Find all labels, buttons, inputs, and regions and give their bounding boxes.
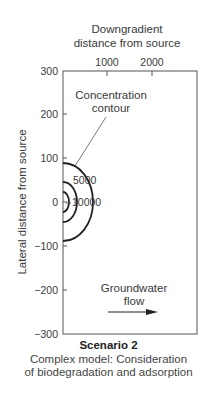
y-tick-label: 0 bbox=[52, 196, 58, 208]
figure-title: Scenario 2 bbox=[0, 339, 217, 352]
caption-line2: of biodegradation and adsorption bbox=[0, 366, 217, 379]
flow-label-line1: Groundwater bbox=[101, 282, 168, 294]
y-tick-label: 300 bbox=[40, 65, 58, 77]
flow-label-line2: flow bbox=[124, 295, 145, 307]
x-axis-title-line2: distance from source bbox=[74, 37, 181, 49]
contour-label-10000: 10000 bbox=[72, 196, 101, 208]
y-tick-label: −200 bbox=[34, 284, 58, 296]
annotation-leader-line bbox=[75, 117, 106, 166]
caption-line1: Complex model: Consideration bbox=[0, 353, 217, 366]
flow-arrow-head-icon bbox=[146, 309, 158, 315]
contour-label-5000: 5000 bbox=[73, 174, 97, 186]
y-tick-label: 100 bbox=[40, 152, 58, 164]
x-tick-label: 1000 bbox=[95, 56, 119, 68]
y-tick-label: −100 bbox=[34, 240, 58, 252]
annotation-contour: contour bbox=[92, 102, 131, 114]
x-tick-label: 2000 bbox=[140, 56, 164, 68]
y-axis-title: Lateral distance from source bbox=[16, 129, 28, 274]
annotation-concentration: Concentration bbox=[75, 89, 147, 101]
y-tick-label: 200 bbox=[40, 108, 58, 120]
x-axis-title-line1: Downgradient bbox=[92, 23, 164, 35]
